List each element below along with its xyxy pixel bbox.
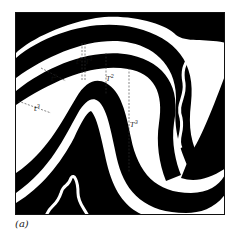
label-T3: T3	[130, 119, 138, 129]
label-T2: T2	[106, 73, 114, 83]
label-t1: t1	[76, 56, 82, 66]
fold-layers-graphic	[16, 13, 225, 215]
fold-diagram: t1 T1 t2 T2 t3 T3	[15, 12, 225, 215]
label-T1: T1	[85, 56, 93, 66]
figure-caption: (a)	[15, 218, 29, 229]
label-t3: t3	[34, 103, 40, 113]
label-t2: t2	[51, 73, 57, 83]
